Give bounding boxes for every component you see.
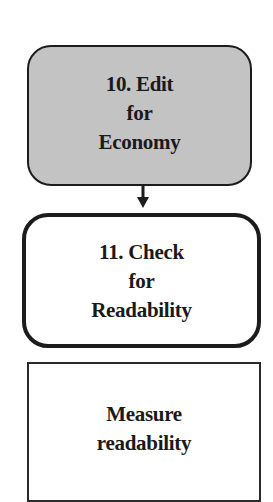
node-label-line: 11. Check bbox=[99, 238, 184, 267]
arrow-down-icon bbox=[137, 186, 149, 208]
step-11-check-for-readability-box: 11. Check for Readability bbox=[22, 213, 261, 348]
node-label-line: for bbox=[129, 267, 155, 296]
node-label-line: Measure bbox=[106, 400, 182, 429]
node-label-line: Economy bbox=[99, 128, 181, 157]
node-label-line: readability bbox=[97, 429, 191, 458]
measure-readability-box: Measure readability bbox=[27, 362, 261, 502]
node-label-line: for bbox=[127, 99, 153, 128]
step-10-edit-for-economy-box: 10. Edit for Economy bbox=[27, 45, 252, 186]
node-label-line: Readability bbox=[91, 296, 192, 325]
node-label-line: 10. Edit bbox=[106, 70, 174, 99]
